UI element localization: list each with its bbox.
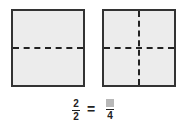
horizontal-dashed-divider bbox=[13, 47, 83, 49]
fraction-left: 2 2 bbox=[72, 99, 80, 122]
right-square-fourths bbox=[102, 9, 176, 87]
numerator: 2 bbox=[73, 99, 79, 109]
fraction-right: 4 bbox=[106, 99, 114, 121]
denominator: 4 bbox=[107, 111, 113, 121]
answer-blank-box[interactable] bbox=[106, 99, 114, 107]
vertical-dashed-divider bbox=[138, 11, 140, 85]
denominator: 2 bbox=[73, 112, 79, 122]
equals-sign: = bbox=[87, 102, 95, 116]
left-square-halves bbox=[11, 9, 85, 87]
